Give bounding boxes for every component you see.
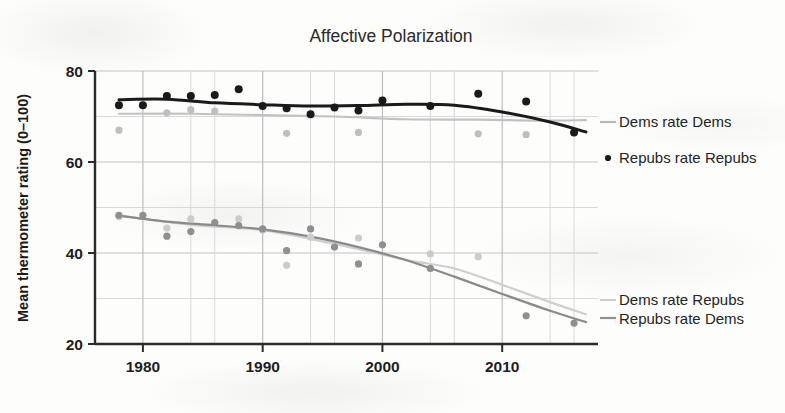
- series-data-point: [163, 109, 170, 116]
- chart-title: Affective Polarization: [309, 26, 472, 46]
- x-axis-ticks: [143, 344, 502, 352]
- series-data-point: [475, 253, 482, 260]
- series-data-point: [427, 250, 434, 257]
- series-data-point: [307, 233, 314, 240]
- legend-label: Dems rate Repubs: [619, 291, 744, 308]
- y-minor-gridlines: [95, 117, 598, 299]
- series-data-point: [187, 106, 194, 113]
- series-data-point: [163, 224, 170, 231]
- x-axis-tick-labels: 1980199020002010: [126, 358, 520, 375]
- y-tick-label: 80: [66, 63, 83, 80]
- series-trend-lines: [119, 99, 586, 322]
- series-data-point: [259, 102, 267, 110]
- series-data-point: [331, 103, 339, 111]
- legend-label: Dems rate Dems: [619, 113, 732, 130]
- legend-dot-swatch: [605, 155, 611, 161]
- series-data-point: [354, 107, 362, 115]
- x-tick-label: 1980: [126, 358, 160, 375]
- figure-container: Affective Polarization Mean thermometer …: [0, 0, 785, 413]
- series-data-point: [235, 222, 242, 229]
- series-data-point: [426, 102, 434, 110]
- series-data-point: [355, 234, 362, 241]
- y-tick-label: 20: [66, 336, 83, 353]
- series-data-point: [187, 215, 194, 222]
- series-data-point: [570, 319, 577, 326]
- x-tick-label: 2010: [485, 358, 519, 375]
- series-data-point: [187, 92, 195, 100]
- series-data-point: [211, 91, 219, 99]
- series-data-point: [474, 90, 482, 98]
- legend-dems-rate-dems: Dems rate Dems: [600, 113, 732, 130]
- series-data-point: [570, 128, 578, 136]
- series-trend-line: [119, 99, 586, 132]
- series-data-point: [163, 92, 171, 100]
- series-data-point: [139, 212, 146, 219]
- series-data-point: [163, 233, 170, 240]
- series-data-point: [427, 265, 434, 272]
- series-data-point: [211, 107, 218, 114]
- series-data-point: [235, 215, 242, 222]
- series-data-point: [259, 225, 266, 232]
- series-data-point: [115, 127, 122, 134]
- x-tick-label: 2000: [365, 358, 399, 375]
- legend-label: Repubs rate Dems: [619, 310, 744, 327]
- series-data-point: [139, 101, 147, 109]
- series-data-point: [283, 247, 290, 254]
- series-data-point: [355, 260, 362, 267]
- x-tick-label: 1990: [245, 358, 279, 375]
- series-data-point: [115, 212, 122, 219]
- y-tick-label: 40: [66, 245, 83, 262]
- y-tick-label: 60: [66, 154, 83, 171]
- series-data-point: [331, 243, 338, 250]
- legend-label: Repubs rate Repubs: [619, 149, 757, 166]
- series-data-point: [379, 241, 386, 248]
- series-data-point: [307, 225, 314, 232]
- series-data-point: [523, 312, 530, 319]
- affective-polarization-chart: Affective Polarization Mean thermometer …: [0, 0, 785, 413]
- series-data-point: [475, 130, 482, 137]
- series-data-point: [283, 262, 290, 269]
- legend-repubs-rate-repubs: Repubs rate Repubs: [605, 149, 757, 166]
- series-data-point: [115, 101, 123, 109]
- legend-dems-rate-repubs: Dems rate Repubs: [600, 291, 744, 308]
- series-data-point: [523, 131, 530, 138]
- y-axis-tick-labels: 20406080: [66, 63, 83, 353]
- series-data-point: [283, 104, 291, 112]
- series-data-point: [187, 228, 194, 235]
- y-axis-title: Mean thermometer rating (0–100): [15, 94, 31, 322]
- series-data-points: [115, 85, 578, 326]
- series-data-point: [355, 129, 362, 136]
- series-data-point: [283, 130, 290, 137]
- series-data-point: [378, 97, 386, 105]
- series-data-point: [522, 97, 530, 105]
- series-data-point: [307, 110, 315, 118]
- legend-repubs-rate-dems: Repubs rate Dems: [600, 310, 744, 327]
- series-data-point: [235, 85, 243, 93]
- series-data-point: [211, 219, 218, 226]
